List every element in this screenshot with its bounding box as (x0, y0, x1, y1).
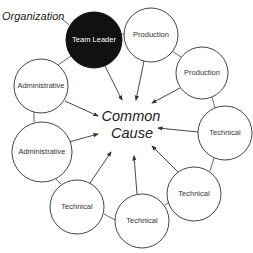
organization-label: Organization (2, 10, 64, 22)
node-team-leader: Team Leader (66, 12, 122, 68)
arrow-production-1-to-center (136, 61, 144, 100)
node-label: Technical (178, 189, 210, 198)
connector-line (210, 158, 214, 171)
arrow-administrative-2-to-center (69, 134, 98, 142)
node-label: Technical (126, 216, 158, 225)
node-technical-2: Technical (167, 167, 221, 221)
arrow-technical-2-to-center (152, 146, 178, 172)
arrow-technical-4-to-center (90, 152, 111, 183)
node-administrative-2: Administrative (12, 122, 72, 182)
arrow-technical-3-to-center (134, 156, 137, 194)
node-production-1: Production (124, 8, 178, 62)
common-cause-label: Common Cause (102, 108, 161, 141)
arrow-team-leader-to-center (105, 66, 122, 100)
connector-line (172, 51, 181, 57)
center-text-line1: Common (102, 108, 161, 124)
node-administrative-1: Administrative (14, 59, 68, 113)
arrow-technical-1-to-center (158, 128, 198, 132)
connector-line (212, 97, 215, 108)
organization-diagram: Team LeaderProductionProductionTechnical… (0, 0, 253, 253)
node-technical-4: Technical (50, 180, 104, 234)
node-label: Production (184, 68, 220, 77)
node-label: Administrative (18, 147, 65, 156)
node-label: Administrative (17, 81, 64, 90)
center-text-line2: Cause (111, 125, 153, 141)
arrow-administrative-1-to-center (65, 101, 98, 116)
connector-line (104, 214, 115, 220)
node-technical-3: Technical (115, 194, 169, 248)
node-label: Technical (209, 128, 241, 137)
arrow-production-2-to-center (152, 88, 180, 103)
node-label: Production (133, 30, 169, 39)
node-label: Team Leader (72, 35, 116, 44)
connector-line (165, 203, 168, 205)
node-technical-1: Technical (198, 106, 252, 160)
connector-line (58, 56, 71, 65)
node-production-2: Production (176, 47, 228, 99)
node-label: Technical (61, 202, 93, 211)
